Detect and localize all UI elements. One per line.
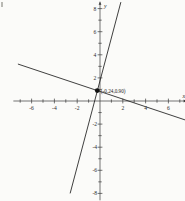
intersection-label: (-0.24,0.90) <box>101 88 126 95</box>
tick-labels-group: -6-4-2246-8-6-4-22468xy <box>29 3 185 197</box>
y-axis-arrow <box>99 2 102 5</box>
coordinate-plane-figure: -6-4-2246-8-6-4-22468xy (-0.24,0.90) <box>0 0 185 201</box>
data-lines-group <box>18 2 185 193</box>
plot-canvas: -6-4-2246-8-6-4-22468xy (-0.24,0.90) <box>0 0 185 201</box>
intersection-dot <box>95 88 100 93</box>
x-tick-label: -2 <box>75 105 80 111</box>
annotations-group: (-0.24,0.90) <box>95 88 126 95</box>
x-tick-label: 4 <box>144 105 147 111</box>
y-tick-label: -6 <box>92 167 97 173</box>
x-tick-label: 6 <box>167 105 170 111</box>
y-tick-label: -4 <box>92 144 97 150</box>
y-tick-label: 2 <box>93 75 96 81</box>
y-tick-label: 6 <box>93 29 96 35</box>
y-tick-label: 4 <box>93 52 96 58</box>
x-tick-label: -4 <box>52 105 57 111</box>
y-tick-label: -8 <box>92 190 97 196</box>
x-axis-label: x <box>181 93 185 99</box>
x-tick-label: -6 <box>29 105 34 111</box>
y-tick-label: 8 <box>93 6 96 12</box>
y-axis-label: y <box>103 3 107 9</box>
x-tick-label: 2 <box>121 105 124 111</box>
x-axis-arrow <box>184 100 185 103</box>
y-tick-label: -2 <box>92 121 97 127</box>
